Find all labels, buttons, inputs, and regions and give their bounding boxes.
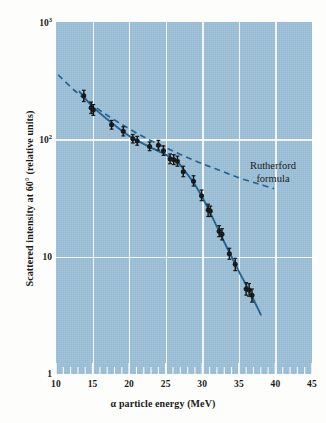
- rutherford-formula-annotation: Rutherford formula: [232, 160, 312, 185]
- data-point: [147, 142, 152, 151]
- data-point-marker: [227, 251, 232, 256]
- data-point: [156, 140, 161, 150]
- data-point-marker: [220, 232, 225, 237]
- annotation-line-2: formula: [232, 173, 312, 186]
- figure-container: Rutherford formula 1015202530354045 1101…: [0, 0, 326, 423]
- x-axis-title: α particle energy (MeV): [0, 398, 326, 409]
- curve-layer: [56, 22, 312, 374]
- data-point-marker: [208, 209, 213, 214]
- x-tick-label: 45: [307, 379, 317, 389]
- x-minor-ticks: [56, 363, 312, 374]
- y-tick-label: 103: [39, 16, 52, 28]
- plot-area: Rutherford formula: [56, 22, 312, 374]
- x-tick-label: 10: [51, 379, 61, 389]
- data-point-marker: [181, 169, 186, 174]
- data-point-marker: [156, 143, 161, 148]
- x-tick-label: 40: [270, 379, 280, 389]
- x-tick-label: 25: [161, 379, 171, 389]
- experimental-fit-curve: [79, 92, 260, 315]
- x-tick-label: 15: [88, 379, 98, 389]
- data-point-marker: [91, 107, 96, 112]
- x-tick-label: 30: [197, 379, 207, 389]
- data-point-marker: [175, 159, 180, 164]
- y-axis-title: Scattered intensity at 60° (relative uni…: [24, 84, 35, 314]
- data-point-marker: [233, 262, 238, 267]
- data-point-marker: [161, 148, 166, 153]
- data-point-marker: [121, 129, 126, 134]
- data-point-marker: [109, 122, 114, 127]
- data-point-marker: [250, 293, 255, 298]
- y-tick-label: 102: [39, 133, 52, 145]
- data-points-layer: [81, 90, 254, 302]
- data-point-marker: [81, 93, 86, 98]
- data-point: [130, 134, 135, 143]
- x-tick-label: 20: [124, 379, 134, 389]
- data-point: [135, 136, 140, 145]
- data-point-marker: [130, 136, 135, 141]
- data-point-marker: [247, 287, 252, 292]
- data-point-marker: [199, 193, 204, 198]
- x-tick-label: 35: [234, 379, 244, 389]
- y-tick-label: 10: [43, 252, 53, 262]
- data-point: [121, 127, 126, 136]
- annotation-line-1: Rutherford: [232, 160, 312, 173]
- data-point-marker: [135, 138, 140, 143]
- data-point: [171, 155, 176, 165]
- y-tick-label: 1: [47, 369, 52, 379]
- data-point-marker: [147, 144, 152, 149]
- data-point-marker: [191, 179, 196, 184]
